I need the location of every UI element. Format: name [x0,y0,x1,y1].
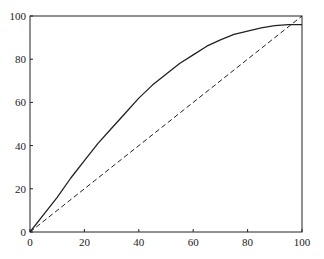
x-tick-label: 40 [133,236,145,248]
chart: 020406080100 020406080100 [0,0,324,259]
x-tick-label: 100 [294,236,311,248]
y-tick-label: 100 [10,10,27,22]
y-axis: 020406080100 [10,10,34,238]
y-tick-label: 80 [15,53,27,65]
x-tick-label: 80 [242,236,254,248]
series-diagonal [30,16,302,232]
x-tick-label: 20 [79,236,91,248]
y-tick-label: 60 [15,96,27,108]
series-layer [30,16,302,232]
x-tick-label: 60 [188,236,200,248]
x-tick-label: 0 [27,236,33,248]
series-curve [30,25,302,232]
y-tick-label: 0 [21,226,27,238]
y-tick-label: 40 [15,140,27,152]
y-tick-label: 20 [15,183,27,195]
